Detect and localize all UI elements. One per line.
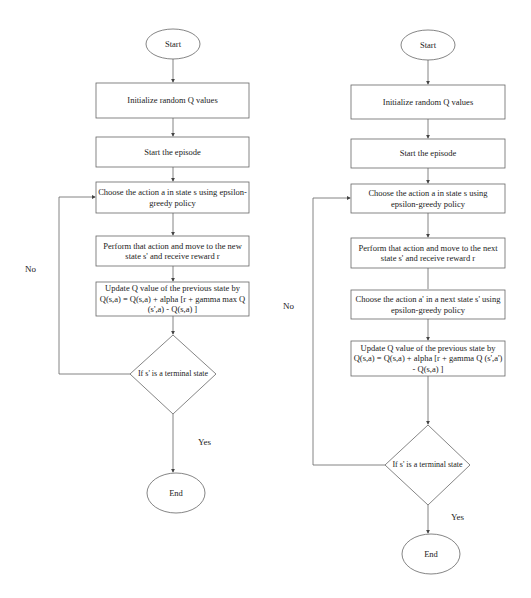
right-no-label: No [283,301,294,311]
left-step-1: Initialize random Q values [96,83,249,118]
left-step-4: Perform that action and move to the new … [96,236,249,266]
left-decision-label: If s' is a terminal state [130,367,216,381]
right-step-3: Choose the action a in state s using eps… [351,184,505,213]
right-step-5: Choose the action a' in a next state s' … [351,290,505,319]
right-step-1: Initialize random Q values [351,85,505,119]
right-step-6: Update Q value of the previous state by … [351,341,505,376]
right-end-label: End [402,544,460,564]
right-decision-label: If s' is a terminal state [385,458,470,472]
left-step-2: Start the episode [96,137,249,167]
right-yes-label: Yes [451,512,464,522]
right-start-label: Start [401,35,455,55]
left-step-5: Update Q value of the previous state by … [96,282,249,316]
left-no-label: No [25,264,36,274]
left-start-label: Start [146,34,200,54]
left-step-3: Choose the action a in state s using eps… [96,182,249,213]
left-yes-label: Yes [198,437,211,447]
right-step-2: Start the episode [351,139,505,168]
left-end-label: End [147,483,205,503]
right-step-4: Perform that action and move to the next… [351,238,505,268]
